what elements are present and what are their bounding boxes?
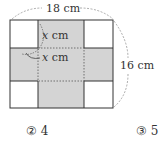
cut-length-label-1: x cm bbox=[42, 30, 68, 41]
width-label: 18 cm bbox=[46, 3, 80, 14]
choice-2[interactable]: ② 4 bbox=[26, 125, 48, 137]
cut-length-label-2: x cm bbox=[42, 52, 68, 63]
choice-3[interactable]: ③ 5 bbox=[136, 125, 158, 137]
height-label: 16 cm bbox=[120, 60, 154, 71]
